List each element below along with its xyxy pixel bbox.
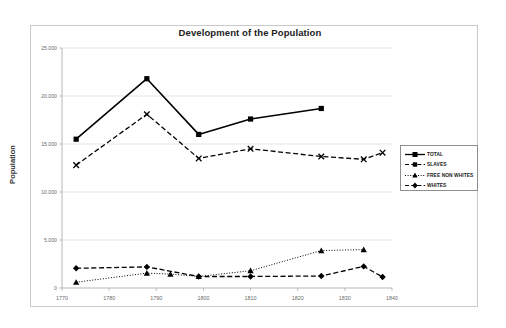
marker-free-non-whites xyxy=(73,279,79,285)
gridlines xyxy=(62,48,392,240)
y-tick-label: 10.000 xyxy=(41,189,57,195)
marker-whites xyxy=(318,273,324,279)
legend-label-whites: WHITES xyxy=(427,181,446,190)
y-tick-label: 0 xyxy=(54,285,57,291)
marker-slaves xyxy=(144,111,150,117)
x-tick-label: 1790 xyxy=(150,295,162,301)
marker-total xyxy=(248,116,253,121)
y-tick-label: 5.000 xyxy=(44,237,57,243)
x-tick-label: 1820 xyxy=(292,295,304,301)
chart-legend: TOTAL SLAVES FREE NON WHITES WHITES xyxy=(400,145,478,191)
series-line-whites xyxy=(76,266,382,277)
legend-item-whites: WHITES xyxy=(404,181,477,191)
x-tick-label: 1770 xyxy=(56,295,68,301)
marker-slaves xyxy=(380,150,386,156)
legend-symbol-total xyxy=(404,150,426,159)
legend-label-total: TOTAL xyxy=(427,150,443,159)
marker-whites xyxy=(361,263,367,269)
x-tick-label: 1780 xyxy=(103,295,115,301)
y-axis: 05.00010.00015.00020.00025.000 xyxy=(41,45,62,291)
marker-whites xyxy=(247,273,253,279)
legend-label-slaves: SLAVES xyxy=(427,160,447,169)
legend-symbol-whites xyxy=(404,181,426,190)
legend-symbol-free-non-whites xyxy=(404,171,426,180)
marker-slaves xyxy=(73,162,79,168)
y-tick-label: 15.000 xyxy=(41,141,57,147)
marker-total xyxy=(74,137,79,142)
marker-total xyxy=(319,106,324,111)
chart-figure: Development of the Population Population… xyxy=(0,0,506,328)
legend-symbol-slaves xyxy=(404,160,426,169)
y-tick-label: 25.000 xyxy=(41,45,57,51)
marker-total xyxy=(144,76,149,81)
marker-total xyxy=(196,132,201,137)
marker-slaves xyxy=(196,156,202,162)
x-axis: 17701780179018001810182018301840 xyxy=(56,288,398,301)
marker-whites xyxy=(144,264,150,270)
marker-whites xyxy=(379,274,385,280)
y-tick-label: 20.000 xyxy=(41,93,57,99)
x-tick-label: 1830 xyxy=(339,295,351,301)
x-tick-label: 1840 xyxy=(386,295,398,301)
legend-item-free-non-whites: FREE NON WHITES xyxy=(404,170,477,180)
series-markers xyxy=(73,76,386,285)
series-lines xyxy=(76,79,382,283)
series-line-total xyxy=(76,79,321,139)
series-line-slaves xyxy=(76,114,382,165)
legend-item-slaves: SLAVES xyxy=(404,160,477,170)
marker-whites xyxy=(73,265,79,271)
x-tick-label: 1800 xyxy=(197,295,209,301)
legend-label-free-non-whites: FREE NON WHITES xyxy=(427,171,473,180)
legend-item-total: TOTAL xyxy=(404,149,477,159)
x-tick-label: 1810 xyxy=(245,295,257,301)
